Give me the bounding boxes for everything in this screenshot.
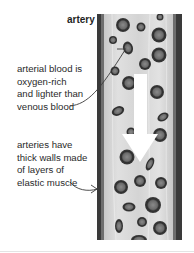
artery-wall-left [97,14,104,240]
artery-illustration [0,0,194,253]
divider [0,251,194,252]
artery-wall-right [173,14,182,240]
annotation-pointer-walls [70,182,97,193]
